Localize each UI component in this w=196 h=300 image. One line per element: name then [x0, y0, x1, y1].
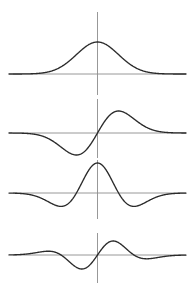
panel-gaussian-first-derivative — [9, 99, 186, 158]
plot-stack — [0, 0, 196, 300]
panel-gaussian — [9, 12, 186, 95]
panel-gaussian-third-derivative — [9, 233, 186, 283]
gaussian-derivatives-figure — [0, 0, 196, 300]
panel-gaussian-second-derivative — [9, 160, 186, 219]
